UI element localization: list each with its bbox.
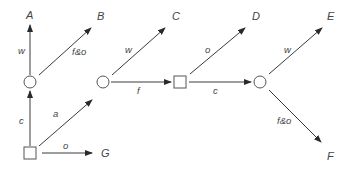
- terminal-label-a: A: [25, 9, 33, 21]
- terminal-label-e: E: [327, 10, 335, 22]
- state-node-circle-1: [24, 76, 36, 88]
- edge-label-o-mid: o: [205, 44, 210, 55]
- edge-o-n3-D: [190, 28, 245, 74]
- edge-label-a: a: [53, 108, 58, 119]
- state-node-circle-2: [97, 76, 109, 88]
- edge-label-w-mid: w: [125, 44, 133, 55]
- terminal-label-d: D: [252, 10, 260, 22]
- state-node-square-mid: [174, 76, 186, 88]
- edge-label-w-left: w: [18, 45, 26, 56]
- diagram-svg: A B C D E F G c a o w f&o w f o c w f&o: [0, 0, 356, 170]
- edge-w-n4-E: [269, 28, 322, 74]
- diagram-canvas: A B C D E F G c a o w f&o w f o c w f&o: [0, 0, 356, 170]
- edge-label-c-mid: c: [213, 85, 218, 96]
- edge-label-fo-right: f&o: [277, 115, 291, 126]
- edge-label-o-bottom: o: [63, 140, 68, 151]
- state-node-square-start: [24, 147, 36, 159]
- state-node-circle-3: [254, 76, 266, 88]
- terminal-label-c: C: [172, 10, 180, 22]
- edge-label-c-left: c: [19, 115, 24, 126]
- edge-label-w-right: w: [284, 44, 292, 55]
- edge-label-fo-left: f&o: [72, 46, 86, 57]
- terminal-label-b: B: [97, 10, 104, 22]
- edge-w-n2-C: [112, 28, 165, 75]
- terminal-label-g: G: [101, 147, 110, 159]
- terminal-label-f: F: [327, 150, 335, 162]
- edge-label-f: f: [137, 85, 141, 96]
